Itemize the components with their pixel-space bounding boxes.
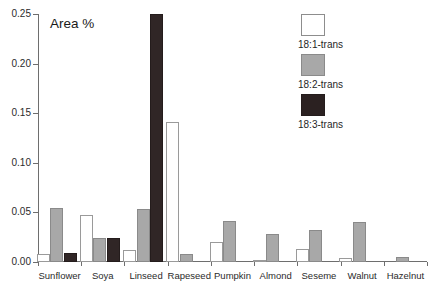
y-axis-tick xyxy=(33,163,38,164)
x-axis-label-seseme: Seseme xyxy=(302,271,337,281)
x-axis-tick xyxy=(38,262,39,266)
x-axis-label-rapeseed: Rapeseed xyxy=(168,271,211,281)
y-axis-tick-label: 0.00 xyxy=(12,257,31,267)
x-axis-label-sunflower: Sunflower xyxy=(38,271,80,281)
x-axis-tick xyxy=(254,262,255,266)
x-axis-tick xyxy=(297,262,298,266)
y-axis-tick xyxy=(33,212,38,213)
bar-almond-18-2-trans xyxy=(266,234,279,262)
bar-linseed-18-1-trans xyxy=(123,250,136,262)
legend-swatch-18-2-trans xyxy=(301,54,325,76)
y-axis-tick-label: 0.10 xyxy=(12,158,31,168)
legend-item-18-3-trans: 18:3-trans xyxy=(298,94,428,131)
legend-item-18-2-trans: 18:2-trans xyxy=(298,54,428,91)
bar-pumpkin-18-1-trans xyxy=(210,242,223,262)
legend-item-18-1-trans: 18:1-trans xyxy=(298,14,428,51)
bar-hazelnut-18-2-trans xyxy=(396,257,409,262)
legend-label-18-1-trans: 18:1-trans xyxy=(298,38,428,51)
y-axis-tick xyxy=(33,14,38,15)
x-axis-tick xyxy=(81,262,82,266)
x-axis-label-walnut: Walnut xyxy=(348,271,377,281)
legend-swatch-18-3-trans xyxy=(301,94,325,116)
bar-seseme-18-2-trans xyxy=(309,230,322,262)
y-axis-tick-label: 0.15 xyxy=(12,108,31,118)
y-axis-tick-label: 0.20 xyxy=(12,59,31,69)
bar-sunflower-18-1-trans xyxy=(37,254,50,262)
x-axis-tick xyxy=(427,262,428,266)
x-axis-label-linseed: Linseed xyxy=(129,271,162,281)
bar-almond-18-1-trans xyxy=(253,260,266,262)
bar-rapeseed-18-1-trans xyxy=(166,122,179,262)
y-axis-tick xyxy=(33,64,38,65)
x-axis-label-hazelnut: Hazelnut xyxy=(387,271,425,281)
y-axis-tick-label: 0.25 xyxy=(12,9,31,19)
bar-linseed-18-2-trans xyxy=(137,209,150,262)
y-axis-line xyxy=(38,14,39,262)
bar-walnut-18-2-trans xyxy=(353,222,366,262)
bar-pumpkin-18-2-trans xyxy=(223,221,236,262)
bar-soya-18-3-trans xyxy=(107,238,120,262)
bar-soya-18-2-trans xyxy=(93,238,106,262)
x-axis-tick xyxy=(124,262,125,266)
x-axis-tick xyxy=(341,262,342,266)
x-axis-tick xyxy=(168,262,169,266)
legend-label-18-2-trans: 18:2-trans xyxy=(298,78,428,91)
chart-legend: 18:1-trans18:2-trans18:3-trans xyxy=(298,14,428,134)
legend-label-18-3-trans: 18:3-trans xyxy=(298,118,428,131)
y-axis-tick xyxy=(33,113,38,114)
y-axis-tick-label: 0.05 xyxy=(12,207,31,217)
x-axis-tick xyxy=(384,262,385,266)
bar-soya-18-1-trans xyxy=(80,215,93,262)
bar-linseed-18-3-trans xyxy=(150,14,163,262)
x-axis-label-soya: Soya xyxy=(92,271,114,281)
x-axis-label-pumpkin: Pumpkin xyxy=(214,271,251,281)
bar-seseme-18-1-trans xyxy=(296,249,309,262)
trans-fatty-acid-bar-chart: Area % 0.000.050.100.150.200.25 Sunflowe… xyxy=(0,0,435,285)
bar-sunflower-18-3-trans xyxy=(64,253,77,262)
bar-sunflower-18-2-trans xyxy=(50,208,63,262)
x-axis-label-almond: Almond xyxy=(260,271,292,281)
bar-rapeseed-18-2-trans xyxy=(180,254,193,262)
bar-walnut-18-1-trans xyxy=(339,258,352,262)
legend-swatch-18-1-trans xyxy=(301,14,325,36)
x-axis-tick xyxy=(211,262,212,266)
